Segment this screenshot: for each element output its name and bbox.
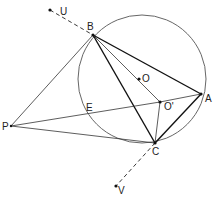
- segment-pb: [11, 35, 93, 126]
- label-e: E: [86, 102, 93, 113]
- point-u: [48, 8, 51, 11]
- geometry-diagram: U B O O' A E P C V: [0, 0, 214, 202]
- label-o-prime: O': [164, 101, 174, 112]
- point-o-prime: [158, 100, 161, 103]
- label-b: B: [87, 21, 94, 32]
- label-p: P: [2, 121, 9, 132]
- dashed-line-cv: [116, 143, 155, 186]
- label-a: A: [205, 93, 212, 104]
- point-c: [153, 141, 156, 144]
- point-b: [91, 33, 94, 36]
- segment-o-prime-c: [155, 102, 160, 143]
- label-c: C: [152, 146, 159, 157]
- point-p: [10, 125, 12, 127]
- point-a: [199, 92, 202, 95]
- point-o: [137, 77, 140, 80]
- segment-pc: [11, 126, 155, 143]
- label-o: O: [142, 73, 150, 84]
- label-u: U: [60, 6, 67, 17]
- label-v: V: [118, 185, 125, 196]
